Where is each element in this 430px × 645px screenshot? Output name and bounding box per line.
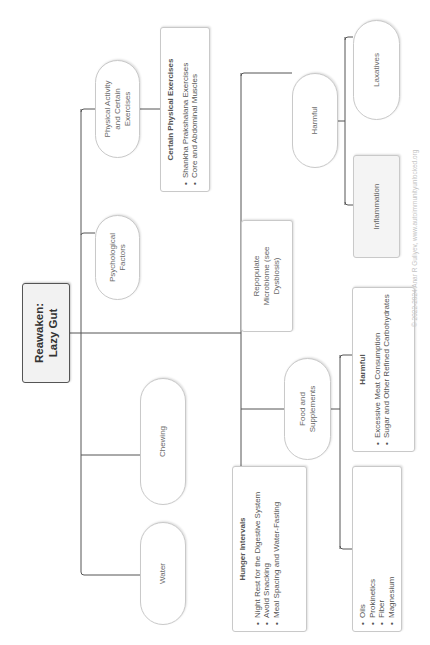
node-harmful-label: Harmful xyxy=(310,107,320,135)
connector-food-helpful xyxy=(340,546,352,549)
root-title-line1: Reawaken: xyxy=(32,303,46,363)
node-food-supplements-label: Food and Supplements xyxy=(298,381,318,437)
node-food-harmful-title: Harmful xyxy=(358,354,368,384)
node-food-harmful[interactable]: Harmful Excessive Meat Consumption Sugar… xyxy=(352,287,415,452)
root-title-box[interactable]: Reawaken: Lazy Gut xyxy=(22,283,70,383)
node-repopulate[interactable]: Repopulate Microbiome (see Dysbiosis) xyxy=(241,220,293,332)
node-chewing-label: Chewing xyxy=(158,426,168,457)
node-physical-activity[interactable]: Physical Activity and Certain Exercises xyxy=(95,60,140,158)
node-food-helpful[interactable]: Oils Prokinetics Fiber Magnesium xyxy=(352,466,402,632)
list-item: Oils xyxy=(358,577,368,625)
node-laxatives-label: Laxatives xyxy=(372,53,382,87)
list-item: Sugar and Other Refined Carbohydrates xyxy=(382,294,392,445)
node-laxatives[interactable]: Laxatives xyxy=(353,20,400,120)
mind-map: Reawaken: Lazy Gut Physical Activity and… xyxy=(0,0,430,645)
node-inflammation-label: Inflammation xyxy=(372,184,381,230)
node-repopulate-label: Repopulate Microbiome (see Dysbiosis) xyxy=(252,235,282,317)
list-item: Meal Spacing and Water-Fasting xyxy=(272,492,282,625)
list-item: Core and Abdominal Muscles xyxy=(190,63,200,185)
node-hunger-intervals[interactable]: Hunger Intervals Night Rest for the Dige… xyxy=(232,466,307,632)
connector-laxatives xyxy=(345,37,353,40)
node-food-supplements[interactable]: Food and Supplements xyxy=(284,358,331,460)
list-item: Avoid Snacking xyxy=(262,492,272,625)
node-psychological[interactable]: Psychological Factors xyxy=(95,215,140,300)
connector-physical xyxy=(81,109,95,112)
list-item: Night Rest for the Digestive System xyxy=(253,492,263,625)
copyright-notice: © 2022-2024 Anar R Guliyev, www.autoimmu… xyxy=(411,150,418,327)
node-water-label: Water xyxy=(158,563,168,584)
node-hunger-intervals-title: Hunger Intervals xyxy=(238,517,248,580)
list-item: Magnesium xyxy=(387,577,397,625)
connector-psychological xyxy=(81,233,95,235)
connector-inflammation xyxy=(345,202,353,205)
node-certain-exercises-list: Shankha Prakshalana Exercises Core and A… xyxy=(181,63,200,185)
connector-water xyxy=(81,572,140,575)
root-title-line2: Lazy Gut xyxy=(46,309,60,358)
node-certain-exercises[interactable]: Certain Physical Exercises Shankha Praks… xyxy=(160,27,210,192)
node-water[interactable]: Water xyxy=(140,522,186,625)
node-harmful[interactable]: Harmful xyxy=(292,73,338,168)
connector-food-harmful xyxy=(340,355,352,358)
node-certain-exercises-title: Certain Physical Exercises xyxy=(166,59,176,161)
node-psychological-label: Psychological Factors xyxy=(108,230,128,285)
node-food-harmful-list: Excessive Meat Consumption Sugar and Oth… xyxy=(373,294,392,445)
connector-harmful xyxy=(241,73,292,76)
list-item: Excessive Meat Consumption xyxy=(373,294,383,445)
node-food-helpful-list: Oils Prokinetics Fiber Magnesium xyxy=(358,577,396,625)
node-chewing[interactable]: Chewing xyxy=(140,378,186,505)
node-physical-activity-label: Physical Activity and Certain Exercises xyxy=(103,79,133,139)
list-item: Prokinetics xyxy=(368,577,378,625)
node-inflammation[interactable]: Inflammation xyxy=(353,155,400,258)
list-item: Fiber xyxy=(377,577,387,625)
list-item: Shankha Prakshalana Exercises xyxy=(181,63,191,185)
node-hunger-intervals-list: Night Rest for the Digestive System Avoi… xyxy=(253,492,282,625)
